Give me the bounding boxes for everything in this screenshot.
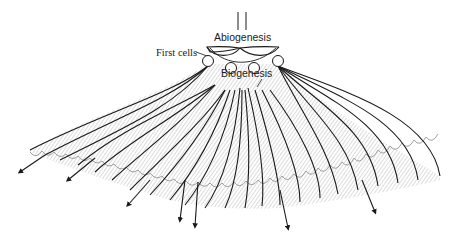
first-cell-4 (273, 56, 284, 67)
first-cell-1 (203, 56, 214, 67)
biogenesis-label: Biogenesis (221, 68, 272, 79)
arrow-1 (20, 155, 45, 172)
abiogenesis-stem (238, 12, 246, 30)
first-cells-leader (196, 52, 207, 56)
abiogenesis-label: Abiogenesis (214, 32, 271, 43)
branch-fan (30, 64, 440, 209)
abiogenesis-bracket (207, 47, 279, 63)
first-cells-label: First cells (156, 48, 197, 59)
